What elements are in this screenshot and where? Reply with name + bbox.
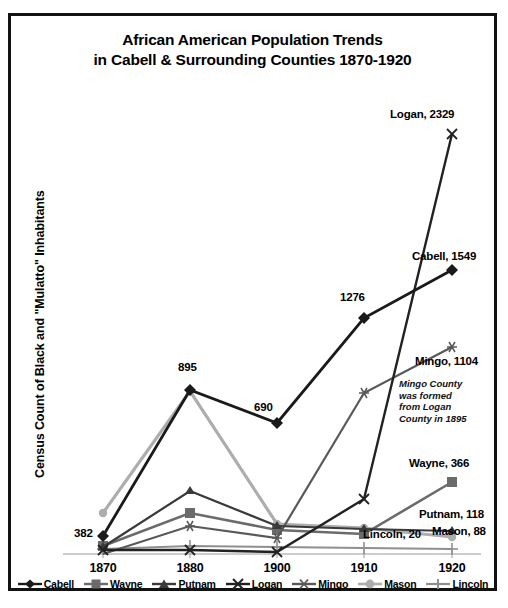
data-label-mason-1920: Mason, 88 bbox=[432, 525, 486, 537]
legend-label-mingo: Mingo bbox=[318, 578, 348, 590]
chart-figure: African American Population Trends in Ca… bbox=[8, 13, 497, 591]
data-label-cabell-1900: 690 bbox=[254, 401, 273, 413]
triangle-marker-icon bbox=[151, 578, 177, 590]
legend-item-lincoln[interactable]: Lincoln bbox=[425, 578, 488, 590]
diamond-marker-icon bbox=[17, 578, 43, 590]
data-label-mingo-1920: Mingo, 1104 bbox=[415, 355, 478, 367]
data-label-wayne-1920: Wayne, 366 bbox=[409, 457, 469, 469]
circle-marker-icon bbox=[357, 578, 383, 590]
legend-label-logan: Logan bbox=[252, 578, 283, 590]
series-line-putnam bbox=[98, 486, 457, 550]
mingo-note-line-4: County in 1895 bbox=[399, 413, 467, 425]
mingo-note-line-1: Mingo County bbox=[399, 378, 467, 390]
legend-label-lincoln: Lincoln bbox=[452, 578, 488, 590]
data-label-lincoln-1920: Lincoln, 20 bbox=[363, 528, 421, 540]
legend-label-mason: Mason bbox=[384, 578, 416, 590]
x-tick-label-1910: 1910 bbox=[334, 561, 394, 575]
chart-legend: Cabell Wayne Putnam bbox=[11, 578, 494, 590]
legend-item-cabell[interactable]: Cabell bbox=[17, 578, 74, 590]
legend-label-cabell: Cabell bbox=[44, 578, 74, 590]
legend-label-putnam: Putnam bbox=[178, 578, 215, 590]
x-tick-label-1900: 1900 bbox=[247, 561, 307, 575]
data-label-cabell-1910: 1276 bbox=[340, 291, 365, 303]
legend-label-wayne: Wayne bbox=[110, 578, 142, 590]
mingo-note-line-3: from Logan bbox=[399, 401, 467, 413]
mingo-county-note: Mingo County was formed from Logan Count… bbox=[399, 378, 467, 424]
data-label-cabell-1920: Cabell, 1549 bbox=[412, 250, 476, 262]
x-tick-label-1870: 1870 bbox=[73, 561, 133, 575]
plot-area: Census Count of Black and "Mulatto" Inha… bbox=[11, 16, 494, 588]
x-tick-label-1920: 1920 bbox=[422, 561, 482, 575]
legend-item-mason[interactable]: Mason bbox=[357, 578, 416, 590]
x-tick-label-1880: 1880 bbox=[160, 561, 220, 575]
chart-plot-svg bbox=[11, 16, 494, 588]
series-line-logan bbox=[98, 129, 457, 557]
data-label-cabell-1870: 382 bbox=[74, 527, 93, 539]
x-marker-icon bbox=[225, 578, 251, 590]
square-marker-icon bbox=[83, 578, 109, 590]
mingo-note-line-2: was formed bbox=[399, 390, 467, 402]
data-label-logan-1920: Logan, 2329 bbox=[390, 108, 454, 120]
data-label-putnam-1920: Putnam, 118 bbox=[419, 508, 484, 520]
plus-marker-icon bbox=[425, 578, 451, 590]
data-label-cabell-1880: 895 bbox=[178, 361, 197, 373]
legend-item-wayne[interactable]: Wayne bbox=[83, 578, 142, 590]
legend-item-mingo[interactable]: Mingo bbox=[291, 578, 348, 590]
asterisk-marker-icon bbox=[291, 578, 317, 590]
legend-item-logan[interactable]: Logan bbox=[225, 578, 283, 590]
legend-item-putnam[interactable]: Putnam bbox=[151, 578, 215, 590]
